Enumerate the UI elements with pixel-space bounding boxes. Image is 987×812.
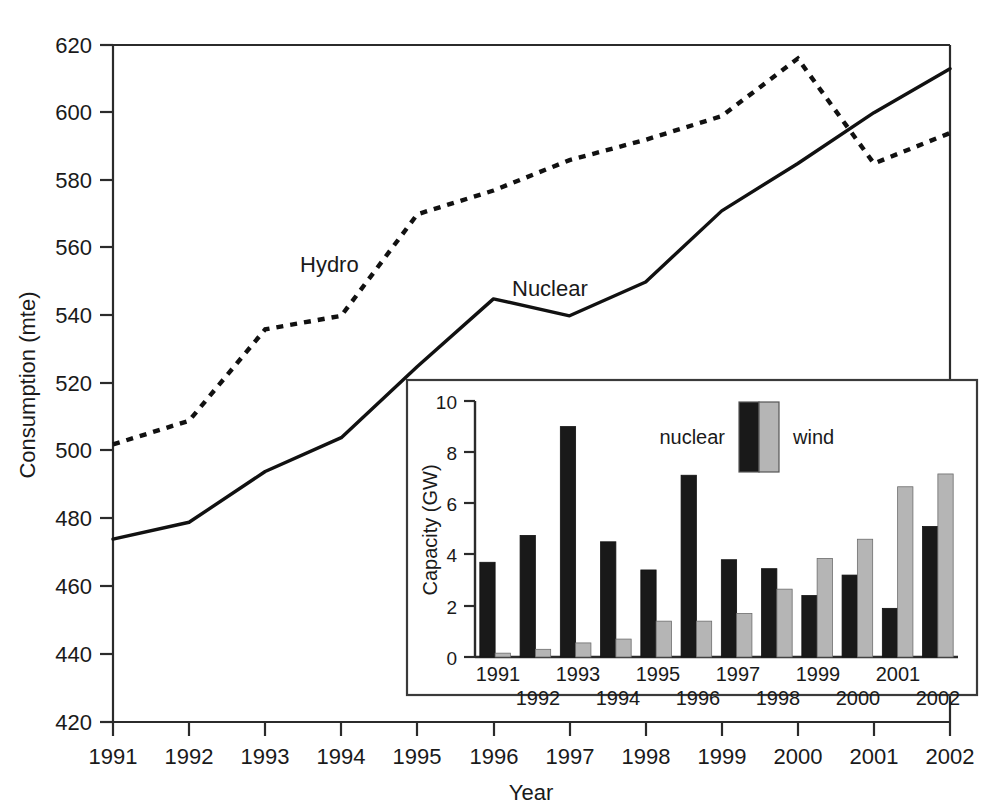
legend-swatch-wind-icon xyxy=(759,402,779,472)
inset-ytick-10: 10 xyxy=(436,392,457,413)
legend-label-wind: wind xyxy=(792,426,834,448)
bar-wind-1991 xyxy=(495,653,510,657)
bar-nuclear-1994 xyxy=(601,542,616,657)
main-ytick-620: 620 xyxy=(55,33,92,58)
inset-xtick-1994: 1994 xyxy=(596,687,641,709)
bar-nuclear-1999 xyxy=(802,596,817,657)
bar-wind-1993 xyxy=(576,643,591,657)
bar-wind-1997 xyxy=(737,613,752,657)
main-ytick-560: 560 xyxy=(55,235,92,260)
bar-wind-1999 xyxy=(817,558,832,657)
inset-xtick-1998: 1998 xyxy=(756,687,801,709)
main-xtick-1994: 1994 xyxy=(317,744,366,769)
main-ytick-520: 520 xyxy=(55,371,92,396)
main-xtick-1993: 1993 xyxy=(241,744,290,769)
inset-ytick-4: 4 xyxy=(446,545,457,566)
main-xtick-1999: 1999 xyxy=(698,744,747,769)
bar-nuclear-2000 xyxy=(842,575,857,657)
inset-xtick-1996: 1996 xyxy=(676,687,721,709)
chart-figure: 620 600 580 560 540 520 500 480 460 440 … xyxy=(0,0,987,812)
main-ytick-500: 500 xyxy=(55,438,92,463)
bar-nuclear-1992 xyxy=(520,535,535,657)
main-xtick-1996: 1996 xyxy=(470,744,519,769)
inset-y-axis-title: Capacity (GW) xyxy=(419,464,441,595)
bar-wind-1995 xyxy=(656,621,671,657)
main-xtick-2002: 2002 xyxy=(926,744,975,769)
bar-wind-2002 xyxy=(938,474,953,657)
main-xtick-2001: 2001 xyxy=(850,744,899,769)
bar-wind-2001 xyxy=(898,487,913,657)
bar-nuclear-1998 xyxy=(762,569,777,657)
hydro-series-label: Hydro xyxy=(300,252,359,277)
inset-ytick-6: 6 xyxy=(446,494,457,515)
bar-nuclear-1993 xyxy=(560,427,575,657)
inset-xtick-1999: 1999 xyxy=(796,663,841,685)
bar-nuclear-1996 xyxy=(681,475,696,657)
bar-nuclear-2002 xyxy=(923,526,938,657)
bar-wind-1992 xyxy=(535,649,550,657)
inset-ytick-2: 2 xyxy=(446,597,457,618)
main-y-axis-title: Consumption (mte) xyxy=(15,291,40,478)
inset-xtick-2002: 2002 xyxy=(916,687,961,709)
legend-label-nuclear: nuclear xyxy=(659,426,725,448)
bar-wind-1996 xyxy=(696,621,711,657)
main-ytick-420: 420 xyxy=(55,710,92,735)
main-ytick-440: 440 xyxy=(55,642,92,667)
main-ytick-480: 480 xyxy=(55,506,92,531)
main-ytick-600: 600 xyxy=(55,100,92,125)
bar-wind-1998 xyxy=(777,589,792,657)
main-xtick-2000: 2000 xyxy=(774,744,823,769)
inset-xtick-1993: 1993 xyxy=(556,663,601,685)
inset-ytick-8: 8 xyxy=(446,443,457,464)
main-x-axis-title: Year xyxy=(509,780,553,805)
inset-xtick-2001: 2001 xyxy=(876,663,921,685)
inset-xtick-1995: 1995 xyxy=(636,663,681,685)
inset-xtick-2000: 2000 xyxy=(836,687,881,709)
bar-nuclear-1991 xyxy=(480,562,495,657)
nuclear-series-label: Nuclear xyxy=(512,276,588,301)
bar-nuclear-1997 xyxy=(721,560,736,657)
bar-nuclear-2001 xyxy=(882,608,897,657)
main-xtick-1992: 1992 xyxy=(165,744,214,769)
legend-swatch-nuclear-icon xyxy=(739,402,759,472)
bar-wind-2000 xyxy=(857,539,872,657)
main-ytick-540: 540 xyxy=(55,303,92,328)
inset-bar-chart: 10 8 6 4 2 0 Capacity (GW) 1991 1993 199… xyxy=(407,380,977,709)
main-xtick-1997: 1997 xyxy=(546,744,595,769)
main-ytick-580: 580 xyxy=(55,168,92,193)
inset-ytick-0: 0 xyxy=(446,648,457,669)
inset-xtick-1992: 1992 xyxy=(516,687,561,709)
main-ytick-460: 460 xyxy=(55,574,92,599)
inset-xtick-1991: 1991 xyxy=(476,663,521,685)
figure-canvas: 620 600 580 560 540 520 500 480 460 440 … xyxy=(0,0,987,812)
main-y-ticks xyxy=(100,45,113,722)
bar-nuclear-1995 xyxy=(641,570,656,657)
inset-xtick-1997: 1997 xyxy=(716,663,761,685)
main-x-ticks xyxy=(113,722,950,736)
bar-wind-1994 xyxy=(616,639,631,657)
main-xtick-1995: 1995 xyxy=(393,744,442,769)
main-xtick-1991: 1991 xyxy=(89,744,138,769)
main-xtick-1998: 1998 xyxy=(622,744,671,769)
